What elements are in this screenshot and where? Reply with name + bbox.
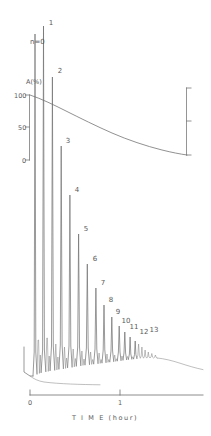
baseline-leading-edge bbox=[24, 347, 33, 376]
peak-10 bbox=[117, 326, 121, 361]
peak-label-2: 2 bbox=[58, 67, 62, 75]
peak-label-13: 13 bbox=[150, 326, 159, 334]
peak-label-n0: n=0 bbox=[30, 38, 45, 46]
minor-peak-o bbox=[98, 353, 100, 363]
peak-3 bbox=[59, 146, 64, 369]
inset-ytick-50: 50 bbox=[18, 124, 26, 132]
inset-decay-curve bbox=[30, 95, 187, 155]
peak-13 bbox=[134, 341, 137, 359]
minor-peak-j bbox=[74, 359, 76, 367]
x-tick-label-1: 1 bbox=[118, 399, 122, 407]
tail-baseline bbox=[157, 358, 203, 370]
peak-8 bbox=[102, 305, 106, 363]
inset-ylabel: A(%) bbox=[26, 78, 42, 86]
minor-peak-s bbox=[114, 355, 116, 361]
minor-peak-m bbox=[90, 352, 92, 364]
peak-9 bbox=[110, 317, 114, 362]
peak-label-group: n=0 1 2 3 4 5 6 7 8 9 10 11 12 13 bbox=[30, 19, 158, 336]
minor-peak-k bbox=[81, 351, 83, 366]
peak-label-11: 11 bbox=[130, 323, 139, 331]
peak-label-4: 4 bbox=[75, 186, 80, 194]
minor-peak-q bbox=[106, 354, 108, 362]
x-axis-line bbox=[30, 390, 203, 395]
minor-peak-h bbox=[66, 358, 68, 368]
x-axis-label: T I M E (hour) bbox=[71, 414, 138, 422]
peak-11 bbox=[123, 332, 127, 360]
peak-label-5: 5 bbox=[84, 225, 88, 233]
plot-canvas: A(%) 100 50 0 bbox=[0, 0, 211, 436]
peak-label-9: 9 bbox=[116, 308, 120, 316]
minor-peak-a bbox=[37, 340, 39, 374]
minor-peak-g bbox=[63, 347, 65, 369]
peak-4 bbox=[68, 195, 73, 368]
minor-peak-l bbox=[83, 359, 85, 365]
peak-12 bbox=[128, 337, 131, 359]
inset-y-axis-right bbox=[187, 88, 192, 155]
peak-6 bbox=[85, 264, 90, 365]
trailing-ripples bbox=[137, 344, 157, 359]
inset-decay-plot: A(%) 100 50 0 bbox=[14, 78, 191, 165]
peak-label-12: 12 bbox=[140, 328, 149, 336]
peak-label-7: 7 bbox=[101, 279, 105, 287]
minor-peak-d bbox=[48, 356, 50, 371]
minor-peak-i bbox=[72, 349, 74, 367]
minor-peak-f bbox=[57, 357, 59, 370]
peak-label-1: 1 bbox=[49, 19, 53, 27]
x-tick-label-0: 0 bbox=[28, 399, 32, 407]
baseline-skirt bbox=[30, 376, 100, 385]
chromatogram-trace bbox=[24, 26, 203, 385]
peak-label-3: 3 bbox=[66, 137, 70, 145]
chromatogram-figure: A(%) 100 50 0 bbox=[0, 0, 211, 436]
peak-7 bbox=[94, 288, 98, 364]
peak-label-6: 6 bbox=[93, 255, 98, 263]
inset-ytick-100: 100 bbox=[14, 92, 26, 100]
minor-peak-b bbox=[39, 355, 41, 373]
peak-label-8: 8 bbox=[109, 296, 113, 304]
peak-5 bbox=[76, 234, 81, 366]
inset-ytick-0: 0 bbox=[22, 157, 26, 165]
minor-peak-c bbox=[46, 338, 49, 372]
main-x-axis: 0 1 T I M E (hour) bbox=[28, 390, 203, 422]
peak-1 bbox=[41, 26, 46, 373]
minor-peak-e bbox=[55, 344, 57, 370]
peak-2 bbox=[50, 77, 55, 371]
